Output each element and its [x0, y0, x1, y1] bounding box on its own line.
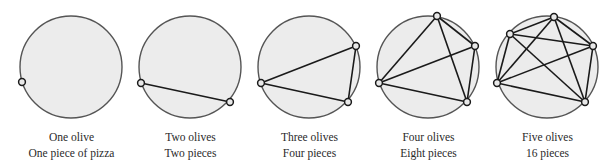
- caption-pieces: 16 pieces: [488, 145, 607, 161]
- caption-one-olive: One olive One piece of pizza: [12, 0, 131, 163]
- caption-pieces: Four pieces: [250, 145, 369, 161]
- caption-olives: Two olives: [131, 129, 250, 145]
- caption-five-olives: Five olives 16 pieces: [488, 0, 607, 163]
- caption-olives: Four olives: [369, 129, 488, 145]
- caption-two-olives: Two olives Two pieces: [131, 0, 250, 163]
- caption-olives: Five olives: [488, 129, 607, 145]
- caption-four-olives: Four olives Eight pieces: [369, 0, 488, 163]
- caption-pieces: Two pieces: [131, 145, 250, 161]
- caption-pieces: Eight pieces: [369, 145, 488, 161]
- caption-pieces: One piece of pizza: [12, 145, 131, 161]
- caption-three-olives: Three olives Four pieces: [250, 0, 369, 163]
- caption-olives: One olive: [12, 129, 131, 145]
- caption-olives: Three olives: [250, 129, 369, 145]
